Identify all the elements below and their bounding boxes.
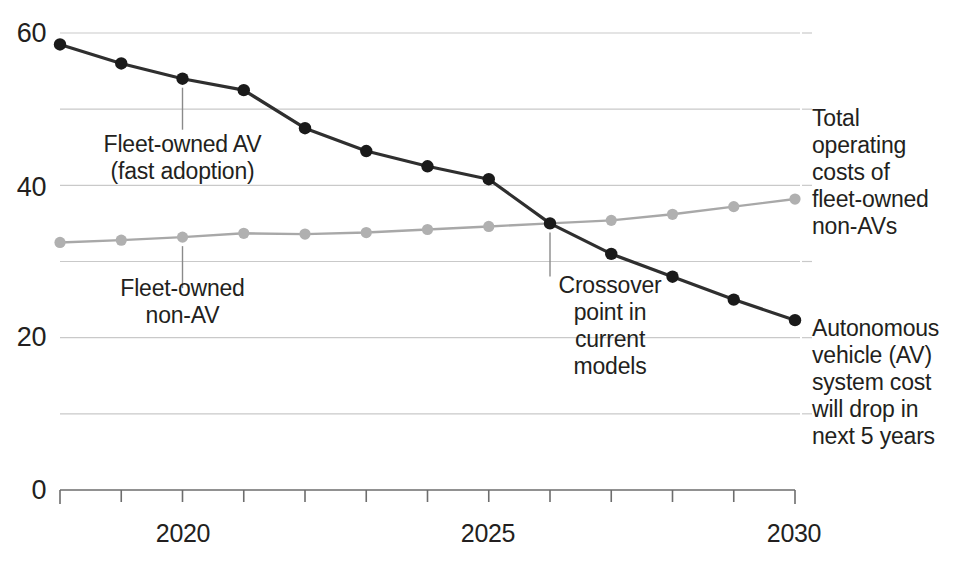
annotation-fleet-owned-non-av: Fleet-owned non-AV [84,275,281,329]
x-tick-label-2020: 2020 [122,521,244,546]
side-label-non-av-total-cost: Total operating costs of fleet-owned non… [812,105,958,240]
annotation-leader-lines [183,88,551,288]
x-tick-label-2030: 2030 [733,521,855,546]
y-tick-label-40: 40 [0,174,46,201]
x-axis [60,490,795,504]
annotation-crossover-point: Crossover point in current models [516,272,704,380]
y-tick-label-0: 0 [0,477,46,504]
annotation-fleet-owned-av: Fleet-owned AV (fast adoption) [60,131,305,185]
y-tick-label-60: 60 [0,20,46,47]
x-tick-label-2025: 2025 [427,521,549,546]
side-label-av-system-cost: Autonomous vehicle (AV) system cost will… [812,315,958,450]
chart-container: 60 40 20 0 2020 2025 2030 Fleet-owned AV… [0,0,958,573]
y-tick-label-20: 20 [0,324,46,351]
